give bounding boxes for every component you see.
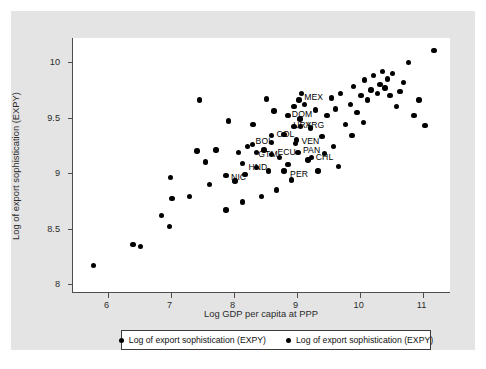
x-axis-tick-label: 9 (293, 300, 298, 310)
scatter-point (194, 148, 199, 153)
scatter-point-ven (293, 141, 298, 146)
scatter-point (240, 199, 245, 204)
scatter-point (250, 122, 255, 127)
scatter-point (333, 106, 338, 111)
point-label-gtm: GTM (258, 149, 277, 159)
x-axis-tick-label: 8 (230, 300, 235, 310)
chart-legend: Log of export sophistication (EXPY) Log … (121, 330, 431, 350)
point-label-per: PER (290, 169, 308, 179)
point-label-dom: DOM (292, 109, 312, 119)
scatter-point (411, 113, 416, 118)
y-axis-tick-label: 9 (11, 168, 60, 178)
scatter-point-bol (250, 142, 255, 147)
scatter-point (207, 182, 212, 187)
scatter-point (331, 144, 336, 149)
scatter-point (226, 118, 231, 123)
legend-label-2: Log of export sophistication (EXPY) (296, 335, 433, 345)
scatter-point (213, 147, 218, 152)
scatter-point (422, 123, 427, 128)
point-label-col: COL (276, 129, 294, 139)
scatter-point (324, 113, 329, 118)
scatter-point (91, 263, 96, 268)
scatter-point (203, 159, 208, 164)
scatter-point (397, 89, 402, 94)
scatter-point (348, 102, 353, 107)
scatter-point (375, 91, 380, 96)
scatter-point (329, 95, 334, 100)
y-axis-tick (68, 284, 73, 285)
scatter-point (336, 164, 341, 169)
x-axis-label: Log GDP per capita at PPP (72, 308, 450, 319)
x-axis-tick (297, 293, 298, 298)
scatter-point (401, 80, 406, 85)
scatter-point (390, 71, 395, 76)
scatter-point-dom (285, 113, 290, 118)
scatter-point (264, 96, 269, 101)
point-label-hnd: HND (248, 162, 267, 172)
y-axis-tick-label: 9.5 (11, 113, 60, 123)
scatter-point (236, 150, 241, 155)
x-axis-tick-label: 10 (354, 300, 364, 310)
point-label-mex: MEX (304, 92, 323, 102)
scatter-point (167, 224, 172, 229)
scatter-point (138, 244, 143, 249)
scatter-point-hnd (240, 161, 245, 166)
point-label-ury: URY (293, 120, 311, 130)
scatter-point (313, 107, 318, 112)
scatter-point (394, 104, 399, 109)
x-axis-tick (423, 293, 424, 298)
scatter-point (368, 87, 373, 92)
scatter-point-pan (295, 150, 300, 155)
scatter-point (382, 85, 387, 90)
scatter-point (302, 102, 307, 107)
scatter-point (385, 76, 390, 81)
x-axis-tick (234, 293, 235, 298)
point-label-nic: NIC (231, 172, 246, 182)
scatter-point-nic (223, 173, 228, 178)
legend-entry-1[interactable]: Log of export sophistication (EXPY) (119, 335, 266, 345)
scatter-point (319, 134, 324, 139)
legend-marker-icon (286, 338, 291, 343)
scatter-point (223, 207, 228, 212)
y-axis-tick-label: 8 (11, 279, 60, 289)
scatter-point-chl (309, 155, 314, 160)
scatter-point (351, 84, 356, 89)
scatter-point (169, 196, 174, 201)
scatter-point (406, 60, 411, 65)
x-axis-tick-label: 6 (104, 300, 109, 310)
scatter-point (371, 73, 376, 78)
scatter-point (361, 120, 366, 125)
plot-area: MEXDOMARGURYCOLVENPANCHLECUBOLGTMHNDPERN… (72, 38, 450, 293)
x-axis-tick (108, 293, 109, 298)
x-axis-tick-label: 7 (167, 300, 172, 310)
scatter-point (159, 213, 164, 218)
scatter-point (285, 162, 290, 167)
scatter-point (416, 97, 421, 102)
y-axis-tick-label: 8.5 (11, 224, 60, 234)
scatter-point (259, 194, 264, 199)
scatter-point (365, 97, 370, 102)
scatter-point (343, 122, 348, 127)
scatter-point (168, 175, 173, 180)
x-axis-tick-label: 11 (417, 300, 427, 310)
scatter-point (130, 242, 135, 247)
scatter-point (271, 108, 276, 113)
figure-canvas: Log of export sophistication (EXPY) Log … (11, 11, 475, 350)
x-axis-tick (360, 293, 361, 298)
legend-entry-2[interactable]: Log of export sophistication (EXPY) (286, 335, 433, 345)
scatter-point (362, 77, 367, 82)
y-axis-tick (68, 229, 73, 230)
scatter-point (338, 91, 343, 96)
scatter-point (274, 187, 279, 192)
y-axis-tick (68, 173, 73, 174)
scatter-point (315, 168, 320, 173)
scatter-point-per (281, 168, 286, 173)
scatter-point (431, 48, 436, 53)
y-axis-tick-label: 10 (11, 57, 60, 67)
point-label-ecu: ECU (277, 147, 295, 157)
y-axis-tick (68, 62, 73, 63)
x-axis-tick (171, 293, 172, 298)
scatter-point (187, 194, 192, 199)
point-label-chl: CHL (316, 152, 334, 162)
y-axis-tick (68, 118, 73, 119)
